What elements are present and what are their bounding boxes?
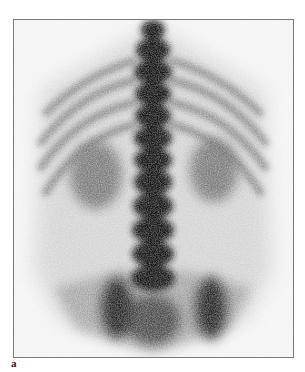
noise-overlay — [14, 20, 293, 357]
bone-scan-image — [14, 20, 293, 357]
panel-label: a — [11, 357, 17, 369]
scan-image-frame — [13, 19, 294, 358]
